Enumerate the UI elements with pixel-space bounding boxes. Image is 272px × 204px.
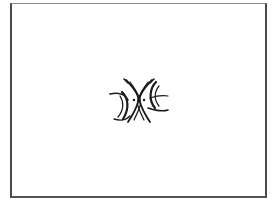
crescent-emblem-icon bbox=[108, 78, 170, 124]
canvas bbox=[0, 0, 272, 204]
